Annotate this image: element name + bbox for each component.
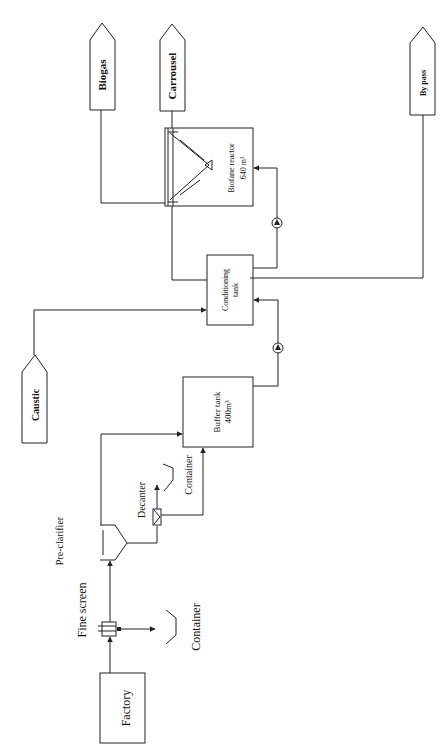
factory-label: Factory: [119, 690, 133, 727]
biogas-label: Biogas: [96, 59, 108, 91]
caustic-input-node: Caustic: [22, 355, 47, 443]
pump-1: [273, 343, 283, 353]
container-1-label: Container: [189, 603, 203, 650]
biogas-output-node: Biogas: [90, 23, 115, 110]
carrousel-output-node: Carrousel: [160, 24, 185, 111]
buffer-tank-label: Buffer tank: [212, 391, 222, 433]
conditioning-tank-node: Conditioning tank: [207, 255, 253, 325]
conditioning-tank-label-2: tank: [231, 283, 240, 297]
container-1-node: Container: [166, 603, 203, 650]
biofane-reactor-node: Biofane reactor 640 m³: [165, 128, 253, 206]
biofane-reactor-label: Biofane reactor: [227, 143, 236, 193]
pre-clarifier-node: Pre-clarifier: [54, 516, 127, 565]
container-2-label: Container: [183, 455, 194, 495]
buffer-tank-node: Buffer tank 400m³: [183, 377, 253, 447]
pump-2: [272, 218, 282, 228]
buffer-tank-volume: 400m³: [223, 400, 233, 424]
biofane-reactor-volume: 640 m³: [239, 156, 248, 179]
carrousel-label: Carrousel: [166, 53, 178, 100]
by-pass-label: By pass: [419, 70, 428, 96]
caustic-label: Caustic: [30, 388, 41, 421]
fine-screen-label: Fine screen: [75, 583, 89, 638]
process-flow-diagram: Biogas Carrousel By pass Biofane reactor…: [0, 0, 445, 756]
factory-node: Factory: [100, 673, 145, 743]
container-2-node: Container: [163, 455, 194, 495]
by-pass-output-node: By pass: [410, 27, 435, 115]
fine-screen-node: Fine screen: [75, 583, 121, 638]
conditioning-tank-label: Conditioning: [221, 269, 230, 311]
decanter-label: Decanter: [136, 481, 147, 518]
pre-clarifier-label: Pre-clarifier: [54, 516, 65, 565]
